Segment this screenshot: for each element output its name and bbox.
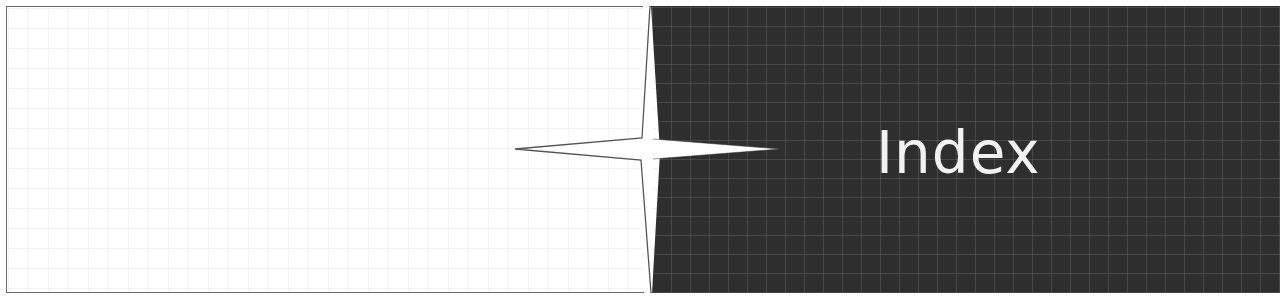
banner-artwork bbox=[0, 0, 1286, 302]
page-title: Index bbox=[876, 118, 1041, 188]
